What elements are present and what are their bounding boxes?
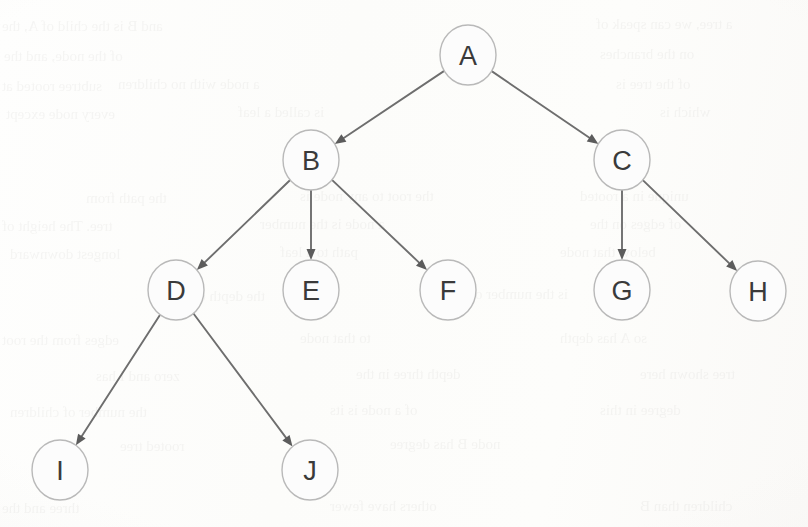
- tree-edge-a-c: [492, 71, 599, 144]
- tree-node-e[interactable]: E: [283, 260, 339, 320]
- tree-node-c[interactable]: C: [594, 130, 650, 190]
- tree-node-d[interactable]: D: [148, 260, 204, 320]
- node-label: H: [748, 277, 768, 307]
- edge-line: [193, 313, 286, 438]
- edge-line: [492, 71, 591, 138]
- arrowhead-icon: [335, 134, 347, 144]
- edge-layer: [76, 71, 737, 447]
- tree-edge-a-b: [335, 71, 444, 144]
- edge-line: [343, 71, 445, 139]
- tree-node-b[interactable]: B: [283, 130, 339, 190]
- arrowhead-icon: [618, 249, 627, 260]
- edge-line: [643, 180, 731, 264]
- node-label: A: [459, 41, 477, 71]
- node-label: F: [440, 276, 457, 306]
- edge-line: [81, 315, 160, 438]
- arrowhead-icon: [307, 249, 316, 260]
- tree-node-a[interactable]: A: [440, 25, 496, 85]
- tree-node-g[interactable]: G: [594, 260, 650, 320]
- edge-line: [204, 180, 291, 263]
- tree-diagram: ABCDEFGHIJ: [0, 0, 808, 527]
- tree-edge-d-j: [193, 313, 292, 446]
- tree-node-h[interactable]: H: [730, 261, 786, 321]
- tree-edge-b-d: [197, 180, 290, 270]
- tree-edge-b-f: [332, 180, 427, 270]
- arrowhead-icon: [282, 435, 292, 447]
- tree-node-f[interactable]: F: [420, 260, 476, 320]
- tree-edge-d-i: [76, 315, 160, 446]
- node-label: I: [56, 456, 64, 486]
- arrowhead-icon: [587, 134, 599, 144]
- edge-line: [332, 180, 420, 264]
- scanned-page: and B is the child of A, thea tree, we c…: [0, 0, 808, 527]
- node-label: B: [302, 146, 320, 176]
- tree-edge-c-h: [643, 180, 737, 271]
- node-label: G: [611, 276, 632, 306]
- node-label: J: [303, 456, 317, 486]
- arrowhead-icon: [76, 434, 86, 446]
- tree-edge-b-e: [307, 190, 316, 260]
- node-label: E: [302, 276, 320, 306]
- tree-node-i[interactable]: I: [32, 440, 88, 500]
- node-label: C: [612, 146, 632, 176]
- node-layer: ABCDEFGHIJ: [32, 25, 786, 500]
- node-label: D: [166, 276, 186, 306]
- tree-edge-c-g: [618, 190, 627, 260]
- tree-node-j[interactable]: J: [282, 440, 338, 500]
